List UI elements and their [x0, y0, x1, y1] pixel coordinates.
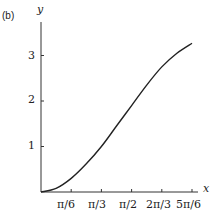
x-tick-label: π/3: [88, 198, 106, 210]
x-tick-label: π/6: [57, 198, 75, 210]
y-axis-label: y: [37, 3, 43, 16]
y-tick-label: 3: [28, 49, 35, 62]
y-tick-label: 2: [28, 93, 35, 106]
x-tick-label: π/2: [119, 198, 137, 210]
x-tick-label: 5π/6: [176, 198, 201, 210]
x-axis-label: x: [203, 182, 209, 195]
x-tick-label: 2π/3: [146, 198, 171, 210]
data-curve: [41, 43, 192, 192]
y-tick-label: 1: [28, 139, 35, 152]
